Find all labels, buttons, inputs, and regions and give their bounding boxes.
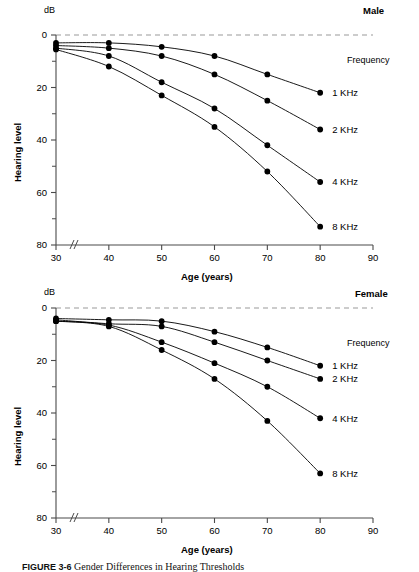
series-data-point [264, 169, 270, 175]
series-data-point [264, 344, 270, 350]
series-data-point [159, 323, 165, 329]
series-data-point [317, 224, 323, 230]
x-tick-label: 60 [209, 525, 220, 536]
x-tick-label: 40 [104, 525, 115, 536]
series-data-point [106, 53, 112, 59]
series-data-point [317, 363, 323, 369]
x-tick-label: 30 [51, 252, 62, 263]
series-data-point [317, 376, 323, 382]
series-data-point [317, 179, 323, 185]
y-tick-label: 0 [42, 29, 47, 40]
series-data-point [159, 318, 165, 324]
x-tick-label: 30 [51, 525, 62, 536]
series-data-point [159, 44, 165, 50]
y-tick-label: 60 [36, 460, 47, 471]
x-tick-label: 70 [262, 525, 273, 536]
female-unit-label: dB [44, 288, 55, 297]
series-label: 8 KHz [332, 221, 358, 232]
series-data-point [212, 376, 218, 382]
figure-caption-text: Gender Differences in Hearing Thresholds [74, 561, 244, 572]
series-data-point [264, 98, 270, 104]
x-tick-label: 80 [315, 252, 326, 263]
series-data-point [212, 71, 218, 77]
series-data-point [212, 329, 218, 335]
series-data-point [264, 384, 270, 390]
series-data-point [106, 40, 112, 46]
male-unit-label: dB [44, 6, 55, 15]
series-data-point [159, 339, 165, 345]
male-legend-title: Frequency [347, 56, 390, 65]
series-data-point [264, 418, 270, 424]
y-tick-label: 0 [42, 302, 47, 313]
series-data-point [159, 92, 165, 98]
x-tick-label: 60 [209, 252, 220, 263]
female-y-axis-title: Hearing level [12, 407, 23, 466]
x-tick-label: 90 [368, 252, 379, 263]
series-data-point [212, 360, 218, 366]
series-data-point [159, 79, 165, 85]
series-data-point [159, 53, 165, 59]
female-x-axis-title: Age (years) [181, 545, 233, 555]
series-data-point [53, 318, 59, 324]
x-tick-label: 50 [156, 525, 167, 536]
series-data-point [264, 142, 270, 148]
series-line [56, 320, 320, 379]
y-tick-label: 80 [36, 239, 47, 250]
x-tick-label: 50 [156, 252, 167, 263]
y-tick-label: 80 [36, 512, 47, 523]
male-x-axis-title: Age (years) [181, 272, 233, 282]
series-data-point [317, 415, 323, 421]
series-data-point [317, 127, 323, 133]
figure-caption-number: FIGURE 3-6 [22, 562, 72, 572]
series-label: 8 KHz [332, 468, 358, 479]
y-tick-label: 60 [36, 187, 47, 198]
series-data-point [317, 90, 323, 96]
series-data-point [212, 124, 218, 130]
chart-panel-male: 020406080304050607080901 KHz2 KHz4 KHz8 … [0, 0, 419, 286]
series-data-point [212, 53, 218, 59]
series-line [56, 49, 320, 226]
y-tick-label: 40 [36, 134, 47, 145]
series-line [56, 46, 320, 130]
series-label: 1 KHz [332, 87, 358, 98]
chart-panel-female: 020406080304050607080901 KHz2 KHz4 KHz8 … [0, 286, 419, 572]
x-tick-label: 70 [262, 252, 273, 263]
series-data-point [264, 71, 270, 77]
series-data-point [212, 106, 218, 112]
male-plot-canvas: 020406080304050607080901 KHz2 KHz4 KHz8 … [0, 0, 419, 286]
figure-caption: FIGURE 3-6 Gender Differences in Hearing… [22, 561, 419, 572]
series-data-point [106, 64, 112, 70]
male-panel-title: Male [363, 6, 384, 16]
series-label: 2 KHz [332, 124, 358, 135]
series-label: 4 KHz [332, 413, 358, 424]
series-line [56, 321, 320, 473]
series-data-point [317, 470, 323, 476]
series-label: 2 KHz [332, 373, 358, 384]
y-tick-label: 20 [36, 82, 47, 93]
series-data-point [264, 358, 270, 364]
series-line [56, 319, 320, 366]
figure-container: 020406080304050607080901 KHz2 KHz4 KHz8 … [0, 0, 419, 572]
male-y-axis-title: Hearing level [12, 123, 23, 182]
series-label: 4 KHz [332, 176, 358, 187]
series-data-point [53, 47, 59, 53]
x-tick-label: 40 [104, 252, 115, 263]
y-tick-label: 20 [36, 355, 47, 366]
series-data-point [106, 45, 112, 51]
y-tick-label: 40 [36, 407, 47, 418]
series-data-point [159, 347, 165, 353]
series-data-point [212, 339, 218, 345]
series-label: 1 KHz [332, 360, 358, 371]
series-line [56, 43, 320, 93]
female-plot-canvas: 020406080304050607080901 KHz2 KHz4 KHz8 … [0, 286, 419, 572]
series-line [56, 48, 320, 182]
series-data-point [106, 323, 112, 329]
female-panel-title: Female [355, 289, 388, 299]
x-tick-label: 90 [368, 525, 379, 536]
x-tick-label: 80 [315, 525, 326, 536]
series-line [56, 321, 320, 418]
female-legend-title: Frequency [347, 339, 390, 348]
